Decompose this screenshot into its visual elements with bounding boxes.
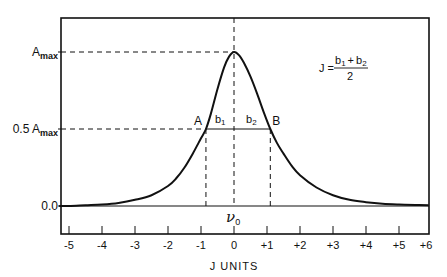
formula-lhs: J = <box>319 62 334 74</box>
x-tick-label: -4 <box>97 239 107 251</box>
half-width-formula: J = b1+b2 2 <box>319 54 368 82</box>
x-tick-label: +6 <box>420 239 433 251</box>
band-shape-chart: -5-4-3-2-10+1+2+3+4+5+6 Amax0.5 Amax0.0 … <box>0 0 447 277</box>
x-tick-label: +4 <box>360 239 373 251</box>
x-tick-label: -1 <box>196 239 206 251</box>
y-axis-labels: Amax0.5 Amax0.0 <box>13 45 61 213</box>
x-tick-label: +5 <box>393 239 406 251</box>
peak-frequency-label: ν0 <box>226 208 240 227</box>
point-b-label: B <box>272 114 280 128</box>
formula-numerator: b1+b2 <box>335 54 367 68</box>
x-tick-label: -2 <box>163 239 173 251</box>
plot-frame <box>61 18 429 234</box>
x-axis-ticks: -5-4-3-2-10+1+2+3+4+5+6 <box>64 226 432 251</box>
segment-b2-label: b2 <box>246 113 257 127</box>
y-tick-label: 0.5 Amax <box>13 122 58 138</box>
x-tick-label: +3 <box>327 239 340 251</box>
x-tick-label: +2 <box>294 239 307 251</box>
segment-b1-label: b1 <box>215 113 226 127</box>
formula-denominator: 2 <box>347 70 353 82</box>
x-tick-label: -3 <box>130 239 140 251</box>
point-a-label: A <box>194 114 202 128</box>
y-tick-label: Amax <box>32 45 58 61</box>
x-tick-label: -5 <box>64 239 74 251</box>
x-axis-label: J UNITS <box>210 260 259 272</box>
dashed-guides <box>61 18 270 206</box>
x-tick-label: +1 <box>261 239 274 251</box>
x-tick-label: 0 <box>231 239 237 251</box>
y-tick-label: 0.0 <box>41 199 58 213</box>
